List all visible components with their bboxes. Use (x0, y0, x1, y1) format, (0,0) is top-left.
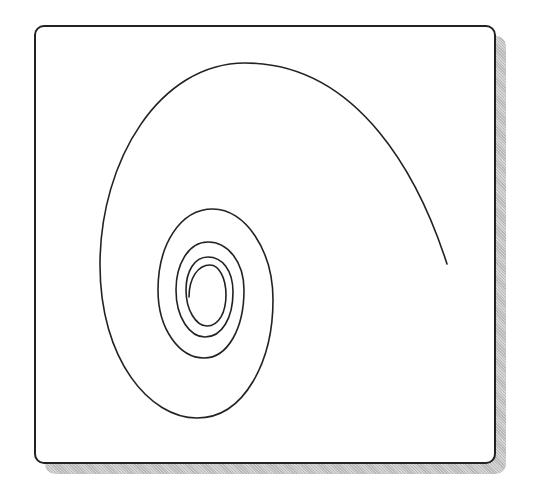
spiral-diagram (0, 0, 538, 498)
spiral-curve (100, 63, 447, 418)
